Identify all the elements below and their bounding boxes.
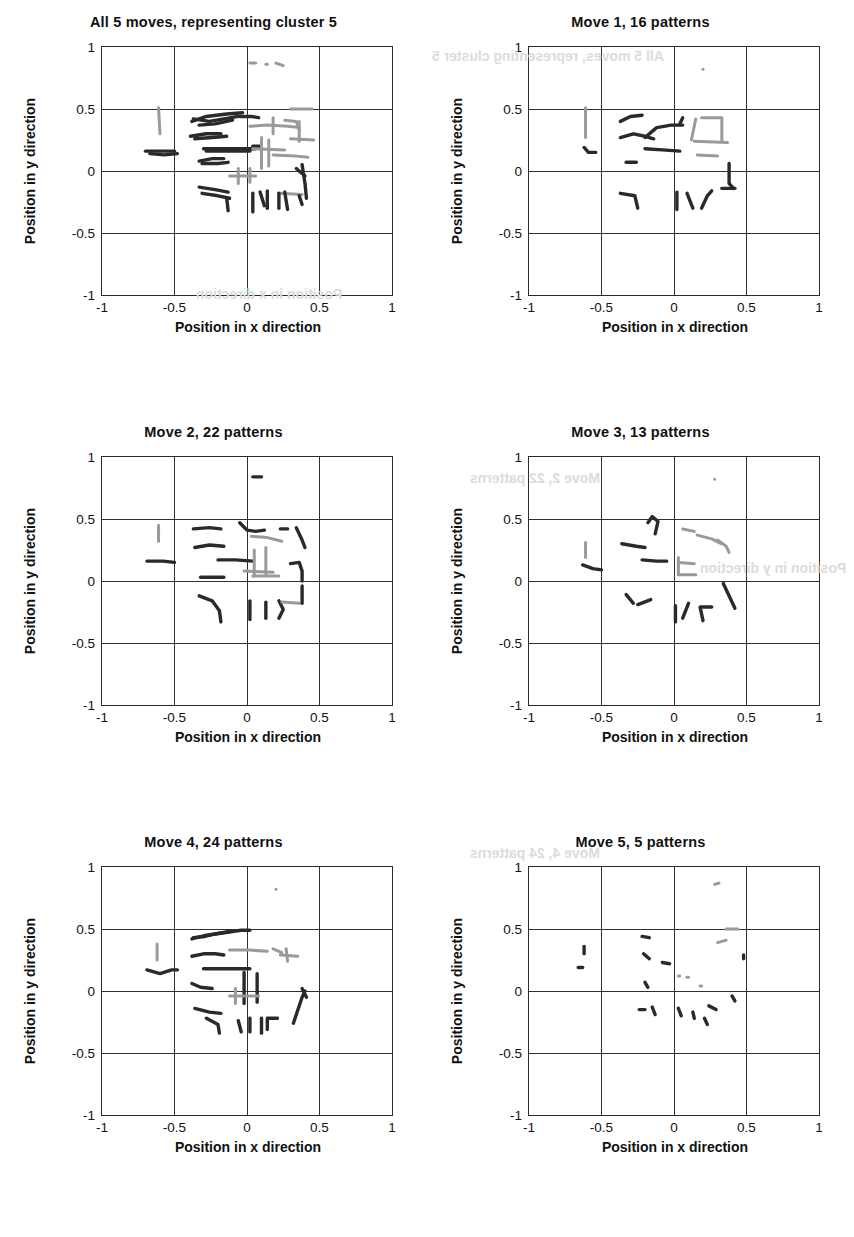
y-tick: 0	[514, 574, 529, 589]
pattern-trace	[700, 607, 712, 621]
pattern-trace	[192, 984, 212, 989]
pattern-trace	[199, 187, 228, 192]
pattern-trace	[193, 528, 221, 529]
pattern-trace	[218, 560, 253, 561]
pattern-trace	[238, 1021, 241, 1032]
panel-move-4: Move 4, 24 patterns 1 0.5 0 -0.5 -1 -1 -…	[0, 820, 427, 1237]
x-tick: 0	[670, 1120, 678, 1135]
pattern-trace	[273, 949, 282, 953]
pattern-trace	[251, 536, 281, 541]
y-axis-label: Position in y direction	[22, 456, 38, 706]
x-axis-label: Position in x direction	[102, 1139, 394, 1155]
y-tick: 0	[87, 164, 102, 179]
pattern-trace	[273, 155, 308, 157]
x-tick: -0.5	[590, 710, 613, 725]
pattern-trace	[276, 63, 283, 65]
pattern-trace	[642, 560, 667, 561]
pattern-trace	[622, 544, 645, 548]
pattern-trace	[282, 602, 299, 603]
pattern-trace	[644, 954, 650, 959]
plot-area: 1 0.5 0 -0.5 -1 -1 -0.5 0 0.5 1 Position…	[528, 456, 820, 706]
panel-title: Move 3, 13 patterns	[427, 424, 854, 440]
pattern-trace	[718, 940, 727, 942]
y-tick: 0	[514, 984, 529, 999]
pattern-trace	[678, 562, 694, 563]
y-axis-label: Position in y direction	[449, 46, 465, 296]
y-tick: 0.5	[503, 922, 529, 937]
pattern-trace	[260, 192, 264, 206]
panel-move-5: Move 5, 5 patterns 1 0.5 0 -0.5 -1 -1 -0…	[427, 820, 854, 1237]
plot-canvas	[102, 457, 392, 705]
pattern-trace	[620, 115, 642, 121]
x-tick: -1	[523, 1120, 535, 1135]
pattern-trace	[678, 1008, 681, 1015]
y-tick: -0.5	[72, 1046, 102, 1061]
y-tick: 1	[514, 40, 529, 55]
pattern-trace	[299, 196, 302, 205]
y-tick: -0.5	[499, 636, 529, 651]
panel-title: Move 1, 16 patterns	[427, 14, 854, 30]
y-tick: -0.5	[499, 226, 529, 241]
panel-title: All 5 moves, representing cluster 5	[0, 14, 427, 30]
plot-canvas	[529, 457, 819, 705]
y-tick: -0.5	[499, 1046, 529, 1061]
pattern-trace	[683, 603, 689, 618]
x-tick: 1	[388, 1120, 396, 1135]
pattern-trace	[626, 595, 633, 604]
pattern-trace	[159, 108, 160, 134]
x-tick: 1	[815, 300, 823, 315]
x-tick: 0	[243, 300, 251, 315]
pattern-trace	[195, 545, 224, 547]
pattern-trace	[147, 561, 175, 562]
y-tick: 1	[87, 860, 102, 875]
x-tick: -1	[523, 710, 535, 725]
pattern-trace	[652, 1007, 655, 1014]
x-tick: 0.5	[737, 300, 756, 315]
y-tick: 0.5	[76, 102, 102, 117]
y-tick: 1	[514, 860, 529, 875]
plot-area: 1 0.5 0 -0.5 -1 -1 -0.5 0 0.5 1 Position…	[101, 866, 393, 1116]
y-tick: -0.5	[72, 636, 102, 651]
x-tick: 0	[670, 300, 678, 315]
panel-title: Move 2, 22 patterns	[0, 424, 427, 440]
pattern-trace	[691, 119, 695, 140]
pattern-trace	[687, 193, 693, 208]
pattern-trace	[199, 596, 221, 622]
pattern-trace	[583, 565, 602, 570]
x-tick: -0.5	[163, 1120, 186, 1135]
x-axis-label: Position in x direction	[529, 1139, 821, 1155]
pattern-trace	[645, 125, 683, 137]
x-tick: -1	[96, 1120, 108, 1135]
x-tick: -1	[96, 710, 108, 725]
y-axis-label: Position in y direction	[22, 46, 38, 296]
x-axis-label: Position in x direction	[529, 319, 821, 335]
pattern-trace	[662, 962, 669, 963]
x-tick: 1	[388, 710, 396, 725]
pattern-trace	[253, 149, 285, 150]
x-tick: 0	[243, 1120, 251, 1135]
x-tick: -1	[523, 300, 535, 315]
pattern-trace	[296, 528, 305, 548]
figure-panel-grid: All 5 moves, representing cluster 5 1 0.…	[0, 0, 854, 1237]
pattern-trace	[206, 1018, 219, 1033]
pattern-trace	[227, 198, 228, 210]
pattern-trace	[240, 523, 265, 532]
x-tick: 0	[670, 710, 678, 725]
pattern-trace	[193, 931, 229, 937]
pattern-trace	[240, 116, 259, 117]
pattern-trace	[291, 139, 314, 140]
x-tick: 1	[815, 710, 823, 725]
y-tick: 0.5	[503, 102, 529, 117]
pattern-trace	[291, 562, 303, 581]
plot-canvas	[529, 867, 819, 1115]
y-axis-label: Position in y direction	[449, 456, 465, 706]
x-tick: 0.5	[310, 1120, 329, 1135]
pattern-trace	[147, 970, 177, 974]
panel-all-moves: All 5 moves, representing cluster 5 1 0.…	[0, 0, 427, 410]
x-axis-label: Position in x direction	[102, 729, 394, 745]
pattern-trace	[680, 118, 683, 124]
x-tick: 0.5	[737, 1120, 756, 1135]
panel-move-3: Move 3, 13 patterns 1 0.5 0 -0.5 -1 -1 -…	[427, 410, 854, 820]
pattern-trace	[694, 141, 727, 142]
pattern-trace	[244, 571, 273, 572]
